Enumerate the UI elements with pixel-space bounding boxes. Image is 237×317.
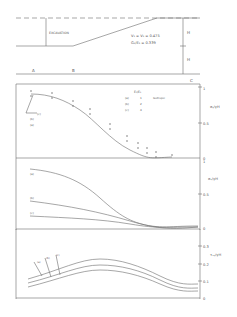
poisson-ratio-label: V₁ = V₂ = 0.475	[131, 34, 160, 38]
point-c-label: C	[190, 78, 193, 83]
bot-label-a: (a)	[37, 261, 41, 264]
curve-a	[28, 259, 198, 284]
legend-b-value: 2	[140, 102, 142, 106]
legend-c-label: (c)	[125, 108, 129, 112]
mid-label-b: (b)	[30, 196, 34, 200]
marker-label-b: (b)	[30, 117, 34, 121]
figure: EXCAVATION A B C H H V₁ = V₂ = 0.475 G₂/…	[0, 0, 237, 317]
curve-c	[28, 270, 198, 291]
top-tick-05-label: 0.5	[203, 122, 209, 126]
curve-c	[30, 216, 198, 227]
legend-a-label: (a)	[125, 96, 129, 100]
curve-b	[30, 201, 198, 227]
excavation-label: EXCAVATION	[49, 31, 69, 35]
depth-h-upper: H	[187, 30, 190, 35]
depth-h-lower: H	[187, 57, 190, 62]
bot-ylabel: τₓᵧ/γH	[210, 253, 221, 257]
curve-a	[30, 169, 198, 228]
mid-ylabel: σₓ/γH	[208, 177, 218, 181]
legend-b-label: (b)	[125, 102, 129, 106]
top-ylabel: σᵧ/γH	[210, 105, 220, 109]
mid-tick-0-label: 0	[203, 227, 206, 231]
mid-tick-1-label: 1	[203, 160, 205, 164]
marker-label-c: (c)	[37, 112, 41, 116]
bot-tick-03-label: 0.3	[203, 245, 209, 249]
leader-c	[56, 255, 60, 275]
sigma-y-curve	[31, 94, 172, 158]
legend-a-value: 1	[140, 96, 142, 100]
bot-tick-0-label: 0	[203, 297, 206, 301]
bot-label-c: (c)	[56, 254, 59, 257]
bot-label-b: (b)	[46, 257, 50, 260]
top-tick-1-label: 1	[203, 87, 205, 91]
bot-tick-02-label: 0.2	[203, 263, 209, 267]
point-b-label: B	[72, 68, 75, 73]
mid-tick-05-label: 0.5	[203, 193, 209, 197]
legend-isotropic: Isotropic	[153, 96, 165, 100]
bot-tick-01-label: 0.1	[203, 280, 209, 284]
leader-a	[34, 262, 42, 276]
legend-c-value: 4	[140, 108, 142, 112]
marker-label-a: (a)	[30, 123, 34, 127]
leader-b	[45, 258, 51, 277]
modulus-ratio-label: G₂/E₁ = 0.339	[131, 41, 156, 45]
data-markers	[30, 90, 173, 158]
mid-label-c: (c)	[30, 211, 34, 215]
mid-label-a: (a)	[30, 172, 34, 176]
curve-b	[28, 265, 198, 288]
legend-title: E₂/E₁	[134, 90, 142, 94]
point-a-label: A	[32, 68, 35, 73]
marker-legend-leader	[26, 95, 37, 113]
chart-sigma-x	[16, 158, 202, 230]
chart-sigma-y	[16, 84, 202, 158]
chart-tau-xy	[16, 229, 202, 299]
excavation-schematic	[16, 18, 200, 74]
